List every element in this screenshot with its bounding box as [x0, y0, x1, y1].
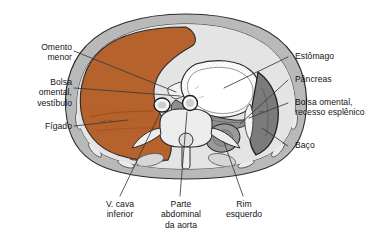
label-rim-esquerdo: Rim esquerdo [213, 199, 275, 220]
label-bolsa-omental-recesso-esplenico: Bolsa omental, recesso esplênico [295, 97, 373, 118]
label-figado: Fígado [8, 121, 72, 131]
label-pancreas: Pâncreas [295, 74, 373, 84]
label-veia-cava-inferior: V. cava inferior [88, 199, 152, 220]
label-baco: Baço [295, 140, 373, 150]
label-omento-menor: Omento menor [8, 42, 72, 63]
label-bolsa-omental-vestibulo: Bolsa omental, vestíbulo [8, 77, 72, 108]
veia-cava-inferior-vessel [154, 98, 170, 112]
label-estomago: Estômago [295, 51, 373, 61]
aorta-abdominal-vessel [183, 96, 198, 111]
label-parte-abdominal-da-aorta: Parte abdominal da aorta [150, 199, 212, 230]
anatomy-figure: Omento menor Bolsa omental, vestíbulo Fí… [0, 0, 373, 242]
